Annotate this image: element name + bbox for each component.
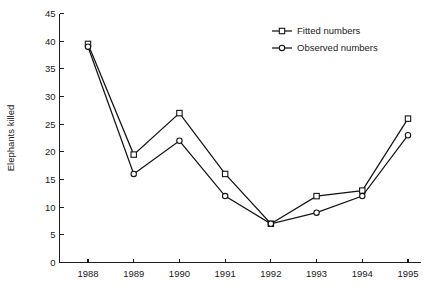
- chart-container: Elephants killed 051015202530354045 1988…: [0, 0, 429, 296]
- data-point-1988: [85, 44, 90, 49]
- y-tick-label-45: 45: [45, 8, 56, 19]
- data-point-1990: [177, 138, 182, 143]
- data-point-1989: [131, 152, 136, 157]
- y-tick-label-0: 0: [50, 257, 55, 268]
- y-tick-label-30: 30: [45, 91, 56, 102]
- x-tick-label-1993: 1993: [306, 268, 327, 279]
- data-point-1992: [268, 221, 273, 226]
- legend-item-observed-numbers[interactable]: Observed numbers: [272, 42, 378, 53]
- data-point-1994: [360, 188, 365, 193]
- y-tick-label-35: 35: [45, 63, 56, 74]
- legend-label: Observed numbers: [297, 42, 378, 53]
- data-point-1993: [314, 210, 319, 215]
- x-tick-label-1991: 1991: [215, 268, 236, 279]
- y-axis-ticks: 051015202530354045: [45, 8, 64, 268]
- x-tick-label-1995: 1995: [397, 268, 418, 279]
- x-tick-label-1989: 1989: [123, 268, 144, 279]
- x-tick-label-1992: 1992: [260, 268, 281, 279]
- x-axis-ticks: 19881989199019911992199319941995: [77, 259, 418, 279]
- series-layer: [85, 41, 410, 226]
- x-tick-label-1994: 1994: [352, 268, 373, 279]
- data-point-1989: [131, 171, 136, 176]
- x-tick-label-1990: 1990: [169, 268, 190, 279]
- data-point-1994: [360, 193, 365, 198]
- data-point-1995: [405, 133, 410, 138]
- data-point-1993: [314, 193, 319, 198]
- y-tick-label-5: 5: [50, 229, 55, 240]
- legend-marker: [279, 28, 284, 33]
- y-tick-label-40: 40: [45, 36, 56, 47]
- legend-label: Fitted numbers: [297, 25, 361, 36]
- chart-legend: Fitted numbersObserved numbers: [272, 25, 378, 53]
- y-tick-label-10: 10: [45, 202, 56, 213]
- y-axis-title: Elephants killed: [5, 105, 16, 172]
- data-point-1991: [222, 171, 227, 176]
- legend-item-fitted-numbers[interactable]: Fitted numbers: [272, 25, 361, 36]
- data-point-1990: [177, 110, 182, 115]
- y-tick-label-25: 25: [45, 119, 56, 130]
- data-point-1995: [405, 116, 410, 121]
- x-tick-label-1988: 1988: [77, 268, 98, 279]
- y-tick-label-20: 20: [45, 146, 56, 157]
- data-point-1991: [222, 193, 227, 198]
- y-tick-label-15: 15: [45, 174, 56, 185]
- legend-marker: [279, 45, 284, 50]
- elephants-killed-line-chart: Elephants killed 051015202530354045 1988…: [0, 0, 429, 296]
